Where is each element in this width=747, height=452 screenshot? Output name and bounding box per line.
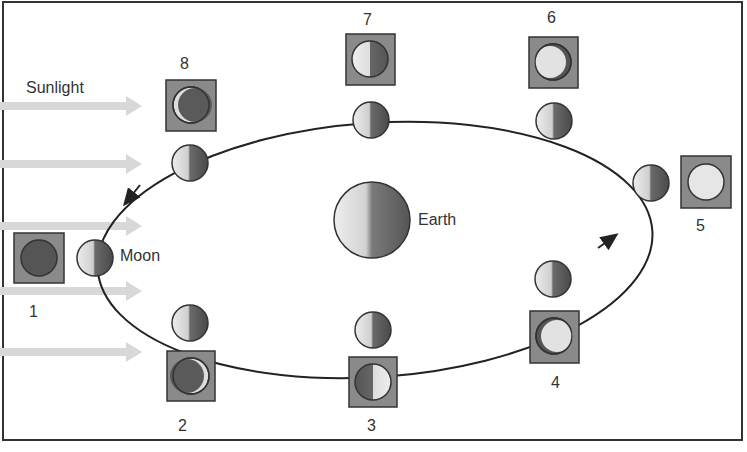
moon-phases-diagram [0,0,747,452]
phase-box-3 [349,357,397,407]
phase-box-4 [530,311,579,363]
moon-icon [77,240,113,276]
phase-number-8: 8 [180,56,189,72]
moon-icon [353,102,389,138]
moon-icon [536,103,572,139]
phase-number-1: 1 [29,304,38,320]
moon-icon [633,165,669,201]
sun-arrow [0,96,142,116]
earth-label: Earth [418,212,456,228]
moon-icon [355,312,391,348]
phase-number-5: 5 [696,218,705,234]
phase-box-8 [166,80,216,131]
phase-number-2: 2 [178,418,187,434]
sunlight-label: Sunlight [26,80,84,96]
sun-arrow [0,154,142,174]
phase-number-6: 6 [547,10,556,26]
phase-number-3: 3 [367,418,376,434]
phase-number-4: 4 [551,375,560,391]
sunlight-arrows [0,96,142,362]
earth-icon [334,182,410,258]
sun-arrow [0,342,142,362]
phase-box-6 [529,37,578,88]
sun-arrow [0,281,142,301]
moon-icon [172,305,208,341]
moon-label: Moon [120,248,160,264]
phase-box-2 [167,351,215,401]
phase-number-7: 7 [363,12,372,28]
phase-box-7 [346,34,395,85]
phase-box-1 [14,233,64,283]
moon-icon [172,145,208,181]
moon-icon [535,261,571,297]
phase-box-5 [681,156,731,208]
